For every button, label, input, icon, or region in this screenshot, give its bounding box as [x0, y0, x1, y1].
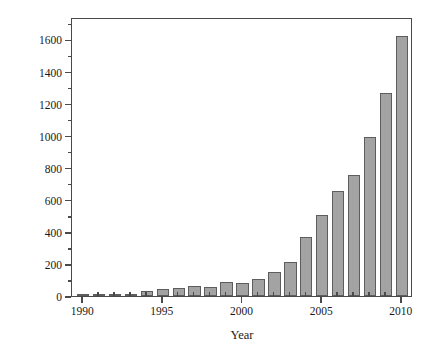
- y-tick-label: 0: [56, 289, 62, 305]
- x-tick-mark: [145, 292, 146, 296]
- x-tick-label: 1990: [58, 305, 106, 317]
- bar-2008: [364, 137, 376, 296]
- chart-figure: Number of papers 02004006008001000120014…: [0, 0, 435, 352]
- y-tick-label: 600: [45, 193, 62, 209]
- bar-2004: [300, 237, 312, 296]
- x-tick-mark: [193, 292, 194, 296]
- x-tick-mark: [129, 292, 130, 296]
- x-tick-mark: [368, 292, 369, 296]
- bar-2009: [380, 93, 392, 296]
- y-tick-label: 400: [45, 225, 62, 241]
- bar-2007: [348, 175, 360, 296]
- bar-1990: [77, 294, 89, 296]
- x-tick-mark: [97, 292, 98, 296]
- x-tick-mark: [305, 292, 306, 296]
- bar-2003: [284, 262, 296, 296]
- x-tick-mark: [257, 292, 258, 296]
- x-tick-mark: [289, 292, 290, 296]
- x-tick-mark: [336, 292, 337, 296]
- bar-2005: [316, 215, 328, 296]
- x-tick-mark: [241, 297, 242, 303]
- bar-1991: [93, 294, 105, 296]
- y-tick-label: 800: [45, 161, 62, 177]
- y-tick-label: 1200: [39, 97, 62, 113]
- y-tick-label: 1400: [39, 65, 62, 81]
- x-tick-mark: [209, 292, 210, 296]
- bar-1996: [173, 288, 185, 296]
- x-tick-label: 2000: [218, 305, 266, 317]
- x-tick-mark: [225, 292, 226, 296]
- x-tick-mark: [161, 297, 162, 303]
- bar-2006: [332, 191, 344, 296]
- bar-1992: [109, 294, 121, 296]
- bar-1999: [220, 282, 232, 296]
- y-tick-label: 1000: [39, 129, 62, 145]
- x-tick-label: 2010: [377, 305, 425, 317]
- bar-1997: [188, 286, 200, 296]
- bar-2010: [396, 36, 408, 296]
- x-axis-title: Year: [71, 328, 413, 343]
- bar-2002: [268, 272, 280, 296]
- x-tick-mark: [352, 292, 353, 296]
- x-tick-mark: [320, 297, 321, 303]
- x-tick-mark: [177, 292, 178, 296]
- x-tick-mark: [81, 297, 82, 303]
- bar-1993: [125, 294, 137, 296]
- bar-2000: [236, 283, 248, 296]
- bar-1995: [157, 289, 169, 296]
- plot-area: [71, 18, 412, 297]
- x-tick-label: 2005: [297, 305, 345, 317]
- x-tick-mark: [400, 297, 401, 303]
- x-tick-label: 1995: [138, 305, 186, 317]
- bar-1994: [141, 291, 153, 296]
- x-tick-mark: [273, 292, 274, 296]
- bar-1998: [204, 287, 216, 296]
- y-tick-label: 200: [45, 257, 62, 273]
- x-tick-mark: [384, 292, 385, 296]
- x-tick-mark: [113, 292, 114, 296]
- y-tick-label: 1600: [39, 32, 62, 48]
- bar-2001: [252, 279, 264, 296]
